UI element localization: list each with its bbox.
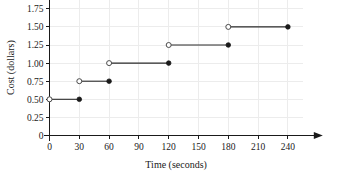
y-tick-label: 1.25 [27,40,44,50]
open-circle-marker [77,79,82,84]
open-circle-marker [166,43,171,48]
closed-circle-marker [166,61,171,66]
x-tick-label: 150 [191,142,206,152]
y-axis-ticks: 00.250.500.751.001.251.501.75 [27,4,50,141]
y-tick-label: 1.50 [27,22,44,32]
open-circle-marker [47,97,52,102]
axes-group [44,0,323,141]
step-function-chart: 0306090120150180210240 00.250.500.751.00… [0,0,340,180]
x-tick-label: 90 [134,142,144,152]
x-tick-label: 30 [75,142,85,152]
y-axis-title: Cost (dollars) [5,40,17,95]
x-tick-label: 210 [251,142,266,152]
open-circle-marker [226,24,231,29]
closed-circle-marker [286,25,291,30]
x-axis-title: Time (seconds) [145,159,207,171]
closed-circle-marker [107,79,112,84]
x-tick-label: 0 [47,142,52,152]
open-circle-marker [107,61,112,66]
x-axis-ticks: 0306090120150180210240 [47,136,295,152]
x-axis-arrow-icon [314,132,323,139]
y-tick-label: 0.75 [27,77,44,87]
y-tick-label: 0.50 [27,95,44,105]
y-tick-label: 1.00 [27,59,44,69]
x-tick-label: 120 [162,142,177,152]
x-tick-label: 240 [281,142,296,152]
y-tick-label: 0 [39,131,44,141]
x-tick-label: 60 [104,142,114,152]
closed-circle-marker [226,43,231,48]
x-tick-label: 180 [221,142,236,152]
y-tick-label: 1.75 [27,4,44,14]
chart-canvas: 0306090120150180210240 00.250.500.751.00… [0,0,340,180]
gridlines-group [50,0,303,136]
y-tick-label: 0.25 [27,113,44,123]
closed-circle-marker [77,97,82,102]
